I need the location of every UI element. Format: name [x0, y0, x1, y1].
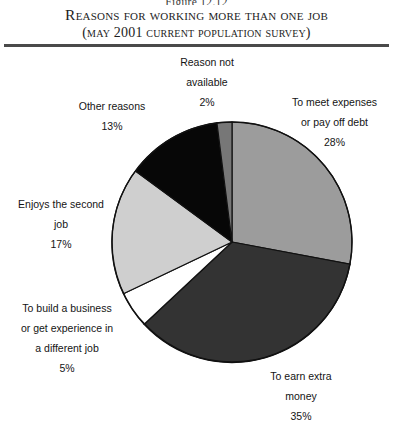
label-line: Reason not: [143, 52, 271, 72]
label-meet-expenses: To meet expenses or pay off debt 28%: [276, 92, 393, 152]
label-line: a different job: [0, 338, 134, 358]
label-line: money: [236, 386, 366, 406]
label-line: or get experience in: [0, 318, 134, 338]
label-earn-money: To earn extra money 35%: [236, 366, 366, 426]
label-line: To meet expenses: [276, 92, 393, 112]
label-line: or pay off debt: [276, 112, 393, 132]
label-build-business: To build a business or get experience in…: [0, 298, 134, 378]
figure-title: Reasons for Working More Than One Job: [0, 5, 393, 24]
label-line: job: [0, 214, 122, 234]
pie-slices: [112, 122, 352, 362]
label-line: To earn extra: [236, 366, 366, 386]
label-percent: 35%: [236, 406, 366, 426]
label-enjoys-job: Enjoys the second job 17%: [0, 194, 122, 254]
figure-header: Figure 12.12 Reasons for Working More Th…: [0, 0, 393, 42]
label-percent: 28%: [276, 132, 393, 152]
header-divider: [4, 44, 389, 47]
label-line: Other reasons: [56, 96, 168, 116]
figure-subtitle: (May 2001 Current Population Survey): [0, 24, 393, 42]
label-line: available: [143, 72, 271, 92]
label-other-reasons: Other reasons 13%: [56, 96, 168, 136]
label-percent: 17%: [0, 234, 122, 254]
label-percent: 13%: [56, 116, 168, 136]
label-line: To build a business: [0, 298, 134, 318]
pie-chart: Reason not available 2% To meet expenses…: [0, 48, 393, 432]
label-line: Enjoys the second: [0, 194, 122, 214]
label-percent: 5%: [0, 358, 134, 378]
